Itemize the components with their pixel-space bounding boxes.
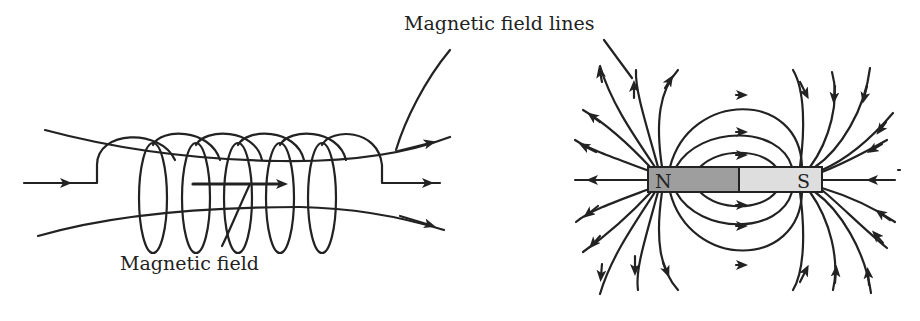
- solenoid-diagram: Magnetic field: [24, 50, 450, 274]
- solenoid-coil: [97, 134, 382, 253]
- field-line-bottom: [38, 207, 444, 236]
- magnetic-field-lines-label: Magnetic field lines: [404, 12, 594, 34]
- field-label-leader: [222, 184, 250, 246]
- solenoid-input-wire: [24, 165, 97, 183]
- south-pole-label: S: [797, 170, 810, 192]
- field-arrow-icon: [398, 143, 430, 151]
- solenoid-output-wire: [382, 165, 440, 183]
- magnetic-field-label: Magnetic field: [120, 252, 259, 274]
- bar-magnet-diagram: N S: [575, 66, 900, 294]
- north-pole-label: N: [655, 170, 672, 192]
- diagram-canvas: Magnetic field Magnetic field lines: [0, 0, 920, 321]
- field-lines-label-leader: [396, 50, 450, 150]
- field-lines-label-leader-right: [604, 40, 632, 78]
